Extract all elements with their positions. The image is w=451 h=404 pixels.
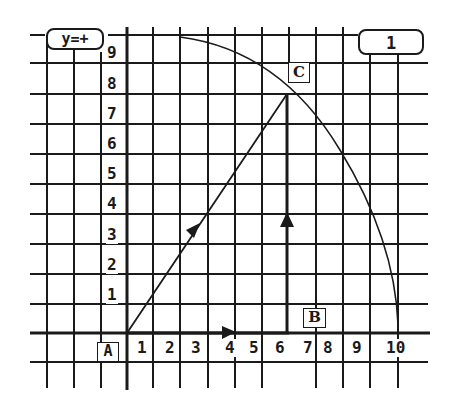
y-tick-8: 8	[106, 75, 118, 93]
point-label-c[interactable]: C	[288, 62, 310, 83]
y-tick-7: 7	[106, 105, 118, 123]
x-tick-1: 1	[136, 339, 148, 357]
y-tick-9: 9	[106, 44, 118, 62]
point-label-b[interactable]: B	[303, 308, 326, 328]
y-tick-4: 4	[106, 195, 118, 213]
x-tick-3: 3	[190, 339, 202, 357]
x-tick-7: 7	[302, 339, 314, 357]
x-tick-2: 2	[164, 339, 176, 357]
x-tick-6: 6	[274, 339, 286, 357]
y-tick-2: 2	[106, 256, 118, 274]
x-tick-5: 5	[248, 339, 260, 357]
point-label-a[interactable]: A	[97, 342, 119, 362]
x-tick-10: 10	[385, 339, 406, 357]
y-tick-5: 5	[106, 165, 118, 183]
mode-indicator-label: y=+	[61, 30, 88, 48]
arrow-ac-icon	[186, 223, 200, 238]
y-tick-1: 1	[106, 286, 118, 304]
y-tick-3: 3	[106, 226, 118, 244]
x-tick-8: 8	[322, 339, 334, 357]
counter-box[interactable]: 1	[358, 29, 424, 55]
x-tick-4: 4	[224, 339, 236, 357]
y-tick-6: 6	[106, 135, 118, 153]
counter-value: 1	[386, 33, 396, 53]
mode-indicator[interactable]: y=+	[46, 28, 104, 50]
x-tick-9: 9	[351, 339, 363, 357]
